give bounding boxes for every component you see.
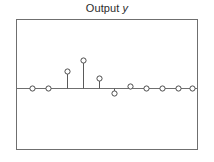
axes-frame — [17, 20, 198, 150]
stem-marker — [81, 58, 86, 63]
stem-series — [30, 58, 195, 96]
stem-marker — [190, 86, 195, 91]
stem-marker — [30, 86, 35, 91]
stem-marker — [128, 84, 133, 89]
chart-figure: Output y — [0, 0, 214, 162]
stem-marker — [65, 69, 70, 74]
stem-marker — [112, 91, 117, 96]
stem-marker — [97, 76, 102, 81]
plot-area — [0, 0, 214, 162]
stem-marker — [46, 86, 51, 91]
stem-marker — [176, 86, 181, 91]
stem-marker — [144, 86, 149, 91]
stem-marker — [160, 86, 165, 91]
